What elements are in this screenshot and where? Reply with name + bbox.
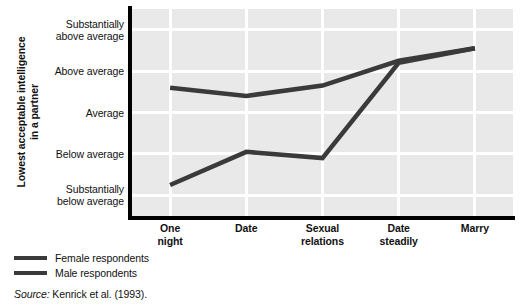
x-axis-tick-label-line: steadily [351, 235, 447, 248]
y-axis-tick-label-line: Average [44, 107, 124, 119]
legend-item: Female respondents [14, 250, 314, 265]
y-axis-tick-label-line: above average [44, 30, 124, 42]
x-axis-tick-label-line: Marry [427, 222, 522, 235]
y-axis-tick-label-line: Substantially [44, 18, 124, 30]
legend-item: Male respondents [14, 265, 314, 280]
y-axis-tick-label: Above average [44, 65, 124, 77]
y-axis-tick-label-line: Below average [44, 148, 124, 160]
y-axis-tick-label-line: Above average [44, 65, 124, 77]
y-axis-tick-labels: Substantiallyabove averageAbove averageA… [46, 0, 128, 220]
x-axis-spine [128, 216, 515, 220]
plot-area [132, 9, 513, 216]
legend-label: Male respondents [55, 267, 137, 279]
y-axis-title-line-2: in a partner [28, 36, 41, 187]
source-note: Source: Kenrick et al. (1993). [14, 288, 147, 300]
chart-figure: Lowest acceptable intelligence in a part… [0, 0, 522, 308]
y-axis-title: Lowest acceptable intelligence in a part… [8, 8, 48, 216]
x-axis-tick-label: Marry [427, 222, 522, 235]
y-axis-tick-label: Substantiallyabove average [44, 18, 124, 42]
source-citation: Kenrick et al. (1993). [50, 288, 148, 300]
y-axis-tick-label: Below average [44, 148, 124, 160]
legend-swatch [14, 271, 47, 275]
y-axis-title-text: Lowest acceptable intelligence in a part… [15, 36, 41, 187]
y-axis-title-line-1: Lowest acceptable intelligence [15, 36, 28, 187]
y-axis-tick-label: Substantiallybelow average [44, 183, 124, 207]
legend-label: Female respondents [55, 252, 149, 264]
source-label: Source: [14, 288, 50, 300]
x-axis-tick-labels: OnenightDateSexualrelationsDatesteadilyM… [132, 222, 513, 252]
x-axis-tick-label-line: night [122, 235, 218, 248]
y-axis-tick-label-line: below average [44, 195, 124, 207]
series-lines [132, 9, 513, 216]
y-axis-tick-label: Average [44, 107, 124, 119]
series-line [170, 48, 475, 185]
chart-legend: Female respondentsMale respondents [14, 250, 314, 280]
y-axis-tick-label-line: Substantially [44, 183, 124, 195]
legend-swatch [14, 256, 47, 260]
